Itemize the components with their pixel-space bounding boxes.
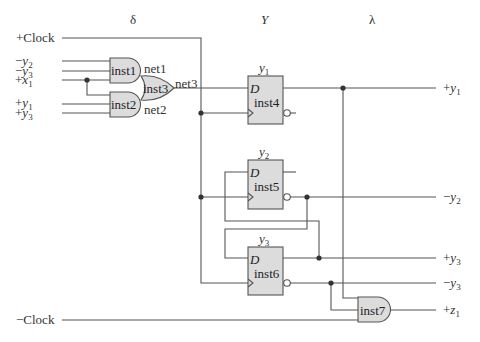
junction-dot bbox=[198, 194, 203, 199]
output-label-minus-y2: −y2 bbox=[443, 190, 461, 208]
delta-header: δ bbox=[130, 13, 136, 26]
ff-state-y3: y3 bbox=[259, 232, 269, 250]
input-label-plus-y3: +y3 bbox=[15, 106, 33, 124]
ff-d-label-inst5: D bbox=[250, 166, 259, 179]
ff-label-inst5: inst5 bbox=[254, 180, 279, 193]
y1-to-inst7-wire bbox=[343, 88, 360, 298]
junction-dot bbox=[316, 255, 321, 260]
inst1-label: inst1 bbox=[111, 64, 136, 77]
output-label-plus-y3: +y3 bbox=[443, 251, 461, 269]
inst7-label: inst7 bbox=[360, 304, 385, 317]
y-header: Y bbox=[261, 13, 268, 26]
input-label-plus-x1: +x1 bbox=[15, 73, 33, 91]
inst2-label: inst2 bbox=[111, 98, 136, 111]
junction-dot bbox=[328, 280, 333, 285]
ff-d-label-inst6: D bbox=[250, 253, 259, 266]
net3-label: net3 bbox=[175, 77, 197, 90]
net2-label: net2 bbox=[144, 103, 166, 116]
plus-clock-label: +Clock bbox=[16, 31, 54, 44]
output-label-plus-y1: +y1 bbox=[443, 81, 461, 99]
output-label-minus-y3: −y3 bbox=[443, 276, 461, 294]
output-label-plus-z1: +z1 bbox=[443, 303, 460, 321]
junction-dot bbox=[84, 77, 89, 82]
junction-dot bbox=[304, 194, 309, 199]
ff-state-y1: y1 bbox=[259, 61, 269, 79]
inst3-label: inst3 bbox=[143, 82, 168, 95]
ff-label-inst4: inst4 bbox=[254, 96, 279, 109]
qbar-bubble-inst4 bbox=[284, 110, 291, 117]
minus-y3-to-inst7-wire bbox=[331, 283, 360, 310]
x1-branch-wire bbox=[87, 80, 110, 95]
circuit-schematic bbox=[0, 0, 480, 342]
ff-state-y2: y2 bbox=[259, 145, 269, 163]
lambda-header: λ bbox=[369, 13, 375, 26]
net1-label: net1 bbox=[144, 62, 166, 75]
junction-dot bbox=[340, 85, 345, 90]
qbar-bubble-inst5 bbox=[284, 194, 291, 201]
ff-d-label-inst4: D bbox=[250, 82, 259, 95]
ff-label-inst6: inst6 bbox=[254, 267, 279, 280]
qbar-bubble-inst6 bbox=[284, 280, 291, 287]
minus-clock-label: −Clock bbox=[16, 313, 54, 326]
junction-dot bbox=[198, 110, 203, 115]
